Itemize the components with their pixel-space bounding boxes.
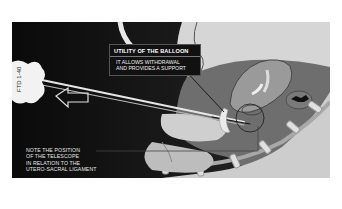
callout-body: IT ALLOWS WITHDRAWAL AND PROVIDES A SUPP… [110,57,200,75]
instrument-label: FTD 1-40 [16,67,22,92]
medical-illustration: FTD 1-40 UTILITY OF THE BALLOON IT ALLOW… [12,22,330,178]
telescope-note: NOTE THE POSITION OF THE TELESCOPE IN RE… [26,147,97,172]
callout-line-2: AND PROVIDES A SUPPORT [116,65,196,71]
note-line-4: UTERO-SACRAL LIGAMENT [26,166,97,172]
callout-title: UTILITY OF THE BALLOON [110,45,200,57]
balloon-callout: UTILITY OF THE BALLOON IT ALLOWS WITHDRA… [109,44,201,76]
